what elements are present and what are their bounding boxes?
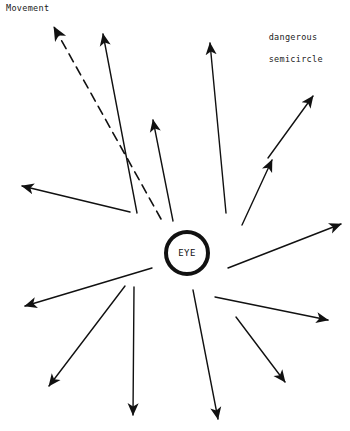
- arrow-ne: [268, 96, 313, 158]
- arrow-n-inner: [153, 120, 173, 221]
- arrow-w: [22, 186, 130, 212]
- arrow-nne: [242, 160, 272, 225]
- eye-circle-group: [166, 232, 208, 274]
- arrow-n: [210, 43, 226, 213]
- arrow-layer: [22, 27, 341, 419]
- dangerous-semicircle-label: dangerous semicircle: [247, 21, 323, 76]
- dangerous-semicircle-line-1: dangerous: [269, 32, 318, 42]
- eye-circle: [166, 232, 208, 274]
- diagram-canvas: EYE Movement dangerous semicircle: [0, 0, 350, 431]
- arrow-sse: [193, 290, 218, 419]
- arrow-e: [215, 297, 328, 320]
- arrow-ese: [236, 317, 285, 382]
- arrow-ssw: [49, 286, 125, 386]
- arrow-ene: [228, 224, 341, 268]
- arrow-s: [133, 287, 134, 415]
- dangerous-semicircle-line-2: semicircle: [269, 54, 323, 64]
- arrow-sw: [25, 268, 152, 306]
- movement-label: Movement: [6, 3, 49, 14]
